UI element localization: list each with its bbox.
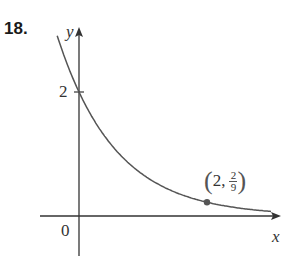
point-2-2-9 — [204, 199, 210, 205]
fraction-numerator: 2 — [231, 170, 237, 181]
fraction-denominator: 9 — [231, 182, 237, 193]
fraction-2-9: 2 9 — [229, 170, 237, 193]
point-x-value: 2, — [213, 171, 226, 191]
origin-label: 0 — [61, 221, 70, 241]
chart-canvas — [0, 0, 281, 262]
x-axis-label: x — [272, 227, 280, 247]
y-axis-label: y — [66, 22, 74, 42]
close-paren: ) — [237, 168, 246, 194]
point-label: ( 2, 2 9 ) — [204, 168, 246, 194]
open-paren: ( — [204, 168, 213, 194]
y-tick-label-2: 2 — [59, 82, 68, 102]
